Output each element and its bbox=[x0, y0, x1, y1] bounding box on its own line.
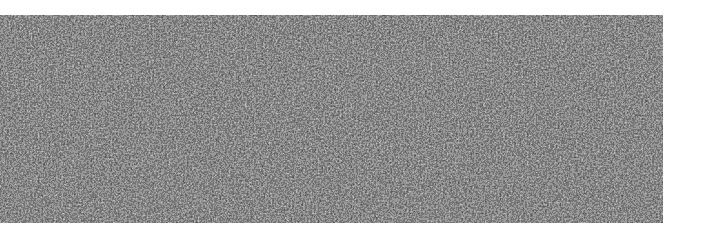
noise-texture bbox=[0, 15, 663, 223]
noise-svg bbox=[0, 15, 663, 223]
image-canvas bbox=[0, 0, 706, 237]
